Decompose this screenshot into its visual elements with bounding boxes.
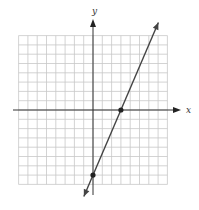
- y-axis-arrow-icon: [90, 19, 96, 27]
- y-axis-label: y: [91, 6, 98, 16]
- x-axis: [13, 107, 181, 113]
- coordinate-plane: x y: [0, 0, 199, 210]
- x-axis-label: x: [186, 105, 191, 115]
- marked-point: [118, 107, 123, 112]
- marked-point: [90, 173, 95, 178]
- x-axis-arrow-icon: [173, 107, 181, 113]
